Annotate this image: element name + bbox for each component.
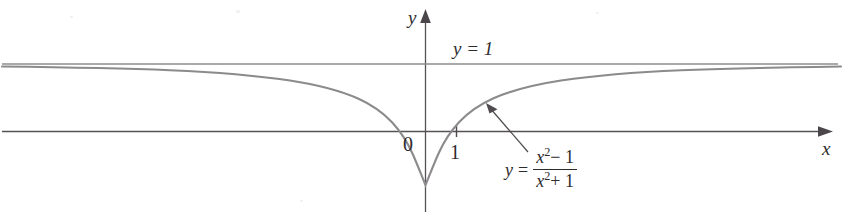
equation-numerator: x2− 1 <box>533 148 577 168</box>
equation-fraction: x2− 1 x2+ 1 <box>533 148 577 191</box>
scan-speck <box>596 12 599 14</box>
y-axis-label: y <box>408 8 416 27</box>
origin-label: 0 <box>403 134 413 154</box>
x-axis-arrowhead <box>818 126 833 137</box>
scan-speck <box>300 200 303 202</box>
denominator-variable: x <box>536 171 544 191</box>
scan-speck <box>236 10 240 13</box>
function-graph-figure: y x 0 1 y = 1 y = x2− 1 x2+ 1 <box>0 0 843 217</box>
y-axis-arrowhead <box>420 9 431 23</box>
asymptote-label: y = 1 <box>453 39 493 58</box>
equation-lhs: y <box>505 161 513 179</box>
equation-leader-arrowhead <box>486 103 498 114</box>
graph-canvas <box>0 0 843 217</box>
numerator-term: − 1 <box>550 147 574 167</box>
equation-denominator: x2+ 1 <box>533 171 577 191</box>
numerator-variable: x <box>536 147 544 167</box>
equation-callout: y = x2− 1 x2+ 1 <box>505 148 577 191</box>
equation-equals-sign: = <box>518 161 528 179</box>
x-tick-1-label: 1 <box>450 142 460 162</box>
equation-leader-line <box>490 108 528 152</box>
x-axis-label: x <box>822 139 830 158</box>
denominator-term: + 1 <box>550 171 574 191</box>
scan-speck <box>70 16 73 18</box>
function-curve <box>2 67 841 186</box>
